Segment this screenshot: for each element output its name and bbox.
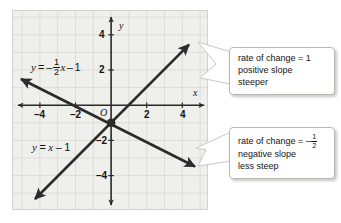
eq1-variable: x <box>48 141 53 153</box>
callout-top-line1: rate of change = 1 <box>238 53 327 65</box>
callout-bottom-line1-prefix: rate of change = <box>238 136 306 146</box>
x-axis-label: x <box>193 87 197 98</box>
eq1-lhs: y <box>32 141 37 153</box>
equation-label-slope-one: y=x–1 <box>32 141 70 153</box>
xtick-label-4: 4 <box>180 109 186 120</box>
callout-bottom-denominator: 2 <box>311 142 317 150</box>
xtick-label-neg2: –2 <box>70 109 81 120</box>
eq1-constant: 1 <box>64 141 70 153</box>
ytick-label-4: 4 <box>99 29 105 40</box>
eq2-minus: – <box>67 61 73 73</box>
eq2-sign: – <box>46 61 52 73</box>
callout-positive-slope: rate of change = 1 positive slope steepe… <box>229 47 335 95</box>
callout-bottom-line1-sign: – <box>306 136 311 146</box>
callout-top-line3: steeper <box>238 77 327 89</box>
eq2-equals: = <box>38 61 44 73</box>
callout-negative-slope: rate of change = –12 negative slope less… <box>229 127 335 179</box>
callout-bottom-line2: negative slope <box>238 149 327 161</box>
intersection-point <box>107 119 116 128</box>
ytick-label-neg4: –4 <box>96 170 107 181</box>
coordinate-plane: y x –4 –2 2 4 4 2 –2 –4 O y=–12x–1 y=x–1 <box>12 10 208 210</box>
callout-top-line2: positive slope <box>238 65 327 77</box>
eq1-equals: = <box>39 141 45 153</box>
eq2-fraction: 12 <box>53 58 60 77</box>
ytick-label-neg2: –2 <box>96 135 107 146</box>
callout-bottom-line3: less steep <box>238 161 327 173</box>
ytick-label-2: 2 <box>99 64 105 75</box>
eq2-constant: 1 <box>74 61 80 73</box>
eq2-lhs: y <box>31 61 36 73</box>
xtick-label-2: 2 <box>144 109 150 120</box>
origin-label: O <box>100 107 107 118</box>
equation-label-negative-half: y=–12x–1 <box>31 58 81 77</box>
callout-top-line1-value: 1 <box>306 53 311 63</box>
callout-bottom-fraction: 12 <box>311 133 317 149</box>
callout-top-line1-prefix: rate of change = <box>238 53 306 63</box>
eq1-minus: – <box>56 141 62 153</box>
figure-stage: y x –4 –2 2 4 4 2 –2 –4 O y=–12x–1 y=x–1… <box>0 0 341 223</box>
eq2-denominator: 2 <box>53 68 60 77</box>
y-axis-label: y <box>119 20 123 31</box>
xtick-label-neg4: –4 <box>34 109 45 120</box>
eq2-variable: x <box>60 61 65 73</box>
callout-bottom-line1: rate of change = –12 <box>238 133 327 149</box>
